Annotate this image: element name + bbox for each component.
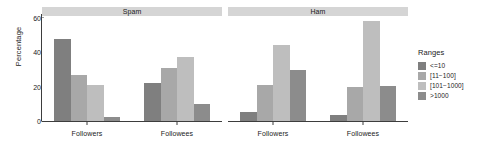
bar [194, 104, 211, 121]
x-axis-line [228, 121, 408, 122]
x-axis-tick-label: Followees [347, 130, 379, 137]
bar [161, 68, 178, 121]
x-axis-tick-label: Followees [161, 130, 193, 137]
legend-swatch-icon [418, 62, 426, 70]
x-axis-tick-label: Followers [258, 130, 289, 137]
legend: Ranges <=10[11−100][101−1000]>1000 [418, 48, 490, 101]
facet-strip-label: Spam [42, 7, 222, 16]
legend-swatch-icon [418, 92, 426, 100]
x-axis-tick-label: Followers [72, 130, 103, 137]
facet-panel-ham: HamFollowersFollowees [228, 7, 408, 121]
bar [290, 70, 307, 122]
legend-items: <=10[11−100][101−1000]>1000 [418, 61, 490, 100]
bar [71, 75, 88, 121]
legend-item[interactable]: [11−100] [418, 71, 490, 80]
plot-area: FollowersFollowees [228, 18, 408, 121]
bar [273, 45, 290, 121]
legend-item-label: [101−1000] [430, 82, 464, 89]
x-axis-tick-mark [273, 122, 274, 125]
bar [104, 117, 121, 121]
legend-item-label: [11−100] [430, 72, 456, 79]
x-axis-tick-mark [87, 122, 88, 125]
legend-title: Ranges [418, 48, 490, 57]
bar [54, 39, 71, 121]
facet-panel-spam: SpamFollowersFollowees [42, 7, 222, 121]
y-axis-tick-label: 0 [19, 118, 41, 125]
y-axis-tick-label: 40 [19, 49, 41, 56]
facet-strip-label: Ham [228, 7, 408, 16]
legend-swatch-icon [418, 82, 426, 90]
legend-item-label: <=10 [430, 62, 445, 69]
x-axis-tick-mark [363, 122, 364, 125]
bar [380, 86, 397, 121]
bar [257, 85, 274, 121]
legend-item[interactable]: [101−1000] [418, 81, 490, 90]
legend-item[interactable]: <=10 [418, 61, 490, 70]
x-axis-line [42, 121, 222, 122]
chart-root: Percentage 0204060 SpamFollowersFollowee… [0, 0, 490, 152]
y-axis-tick-label: 60 [19, 15, 41, 22]
x-axis-tick-mark [177, 122, 178, 125]
bar [240, 112, 257, 121]
bar [347, 87, 364, 121]
legend-item-label: >1000 [430, 92, 449, 99]
bar [330, 115, 347, 121]
legend-item[interactable]: >1000 [418, 91, 490, 100]
bar [144, 83, 161, 121]
bar [363, 21, 380, 121]
bar [177, 57, 194, 121]
plot-area: FollowersFollowees [42, 18, 222, 121]
bar [87, 85, 104, 121]
legend-swatch-icon [418, 72, 426, 80]
y-axis-tick-label: 20 [19, 83, 41, 90]
y-axis: Percentage 0204060 [0, 0, 41, 152]
